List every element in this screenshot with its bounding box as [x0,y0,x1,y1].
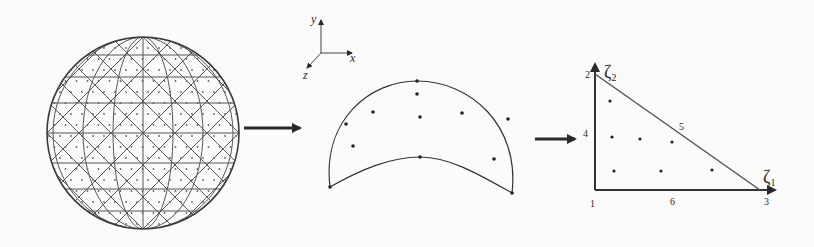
reference-triangle [595,64,775,190]
figure: y x z ζ2 ζ1 1 2 3 4 5 6 [0,0,814,247]
sphere-mesh [0,36,431,229]
node-label-3: 3 [764,196,769,207]
x-axis-label: x [349,51,356,65]
node-label-5: 5 [679,121,684,132]
curved-element [328,79,514,195]
y-axis-label: y [310,12,317,26]
zeta2-axis-label: ζ2 [604,62,616,83]
node-label-4: 4 [583,128,588,139]
xyz-axes [307,20,352,68]
node-label-2: 2 [585,69,590,80]
z-axis-label: z [302,68,308,82]
node-label-6: 6 [670,196,675,207]
zeta1-axis-label: ζ1 [763,167,775,188]
node-label-1: 1 [590,198,595,209]
